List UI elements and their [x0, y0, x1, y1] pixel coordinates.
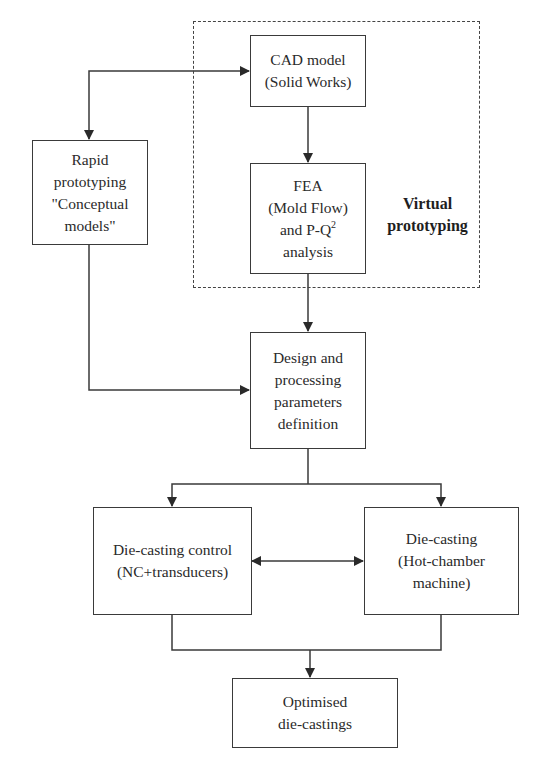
- node-rapid-prototyping: Rapid prototyping "Conceptual models": [32, 140, 148, 245]
- node-text: (Mold Flow): [268, 197, 348, 219]
- node-text: models": [64, 215, 115, 237]
- node-text: Rapid: [71, 149, 108, 171]
- node-text: Die-casting control: [113, 539, 232, 561]
- node-text: parameters: [274, 391, 342, 413]
- node-text: (Solid Works): [265, 71, 352, 93]
- node-text-part: and P-Q: [280, 221, 331, 238]
- edge-to-control: [172, 484, 308, 506]
- node-text: prototyping: [54, 171, 126, 193]
- node-text: die-castings: [278, 713, 352, 735]
- node-cad-model: CAD model (Solid Works): [250, 35, 366, 107]
- node-text: CAD model: [270, 49, 345, 71]
- node-die-casting-control: Die-casting control (NC+transducers): [93, 507, 252, 615]
- node-text: Optimised: [283, 691, 348, 713]
- node-text: machine): [413, 572, 471, 594]
- node-die-casting-machine: Die-casting (Hot-chamber machine): [364, 507, 519, 615]
- group-label-line: Virtual: [380, 193, 475, 215]
- node-text: (Hot-chamber: [398, 550, 485, 572]
- edge-to-diecasting: [308, 484, 441, 506]
- node-text: Design and: [273, 347, 343, 369]
- node-text: (NC+transducers): [117, 561, 228, 583]
- superscript: 2: [331, 219, 336, 230]
- group-label-line: prototyping: [380, 215, 475, 237]
- node-text: definition: [278, 413, 338, 435]
- node-text: analysis: [283, 241, 333, 263]
- node-text: and P-Q2: [280, 219, 336, 241]
- edge-merge: [172, 614, 441, 650]
- node-text: FEA: [293, 175, 322, 197]
- node-optimised-die-castings: Optimised die-castings: [232, 678, 398, 748]
- node-fea-analysis: FEA (Mold Flow) and P-Q2 analysis: [250, 163, 366, 274]
- node-design-parameters: Design and processing parameters definit…: [250, 332, 366, 449]
- virtual-prototyping-label: Virtual prototyping: [380, 193, 475, 237]
- node-text: Die-casting: [406, 528, 477, 550]
- node-text: "Conceptual: [52, 193, 129, 215]
- node-text: processing: [275, 369, 341, 391]
